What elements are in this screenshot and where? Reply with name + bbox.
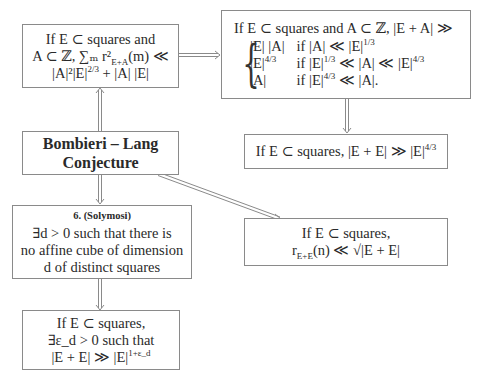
box-sumset-cases: If E ⊂ squares and A ⊂ ℤ, |E + A| ≫ { |E… <box>221 10 471 99</box>
case-condition: if |E|1/3 ≪ |A| ≪ |E|4/3 <box>297 55 425 72</box>
epsilon-growth-line1: If E ⊂ squares, <box>57 315 146 332</box>
bombieri-lang-line2: Conjecture <box>62 153 138 172</box>
epsilon-growth-line2: ∃ε_d > 0 such that <box>48 332 155 349</box>
representation-line1: If E ⊂ squares, <box>302 225 391 242</box>
box-representation: If E ⊂ squares, rE+E(n) ≪ √|E + E| <box>244 218 448 266</box>
box-sum-bound: If E ⊂ squares and A ⊂ ℤ, ∑ₘ r²E+A(m) ≪ … <box>22 24 179 88</box>
cases-table: |E| |A| if |A| ≪ |E|1/3 |E|4/3 if |E|1/3… <box>250 38 424 89</box>
sumset-43-text: If E ⊂ squares, |E + E| ≫ |E|4/3 <box>256 143 437 160</box>
arrow-sumset-cases-to-sumset-43 <box>343 98 351 133</box>
arrow-bombieri-to-solymosi <box>96 174 104 204</box>
case-row: |E|4/3 if |E|1/3 ≪ |A| ≪ |E|4/3 <box>250 55 424 72</box>
arrow-bombieri-to-sum-bound <box>96 88 104 131</box>
sumset-cases-header: If E ⊂ squares and A ⊂ ℤ, |E + A| ≫ <box>234 20 453 37</box>
box-sumset-43: If E ⊂ squares, |E + E| ≫ |E|4/3 <box>244 134 448 169</box>
solymosi-line2: no affine cube of dimension <box>21 242 183 259</box>
sum-bound-line1: If E ⊂ squares and <box>46 31 156 48</box>
sum-bound-line3: |A|²|E|2/3 + |A| |E| <box>52 65 149 82</box>
epsilon-growth-line3: |E + E| ≫ |E|1+ε_d <box>51 349 150 366</box>
arrow-sum-bound-to-sumset-cases <box>178 51 220 59</box>
cases-block: { |E| |A| if |A| ≪ |E|1/3 |E|4/3 if |E|1… <box>240 38 424 89</box>
case-condition: if |E|4/3 ≪ |A|. <box>297 72 425 89</box>
representation-line2: rE+E(n) ≪ √|E + E| <box>292 242 400 259</box>
box-solymosi: 6. (Solymosi) ∃d > 0 such that there is … <box>12 205 192 279</box>
solymosi-heading: 6. (Solymosi) <box>73 209 131 223</box>
solymosi-line3: d of distinct squares <box>44 259 160 276</box>
bombieri-lang-line1: Bombieri – Lang <box>43 134 159 153</box>
arrow-solymosi-to-epsilon-growth <box>96 278 104 310</box>
case-row: |A| if |E|4/3 ≪ |A|. <box>250 72 424 89</box>
solymosi-line1: ∃d > 0 such that there is <box>32 225 171 242</box>
left-brace-icon: { <box>242 38 248 89</box>
case-condition: if |A| ≪ |E|1/3 <box>297 38 425 55</box>
box-epsilon-growth: If E ⊂ squares, ∃ε_d > 0 such that |E + … <box>22 310 180 370</box>
sum-bound-line2: A ⊂ ℤ, ∑ₘ r²E+A(m) ≪ <box>32 48 169 65</box>
box-bombieri-lang: Bombieri – Lang Conjecture <box>22 131 179 175</box>
case-row: |E| |A| if |A| ≪ |E|1/3 <box>250 38 424 55</box>
